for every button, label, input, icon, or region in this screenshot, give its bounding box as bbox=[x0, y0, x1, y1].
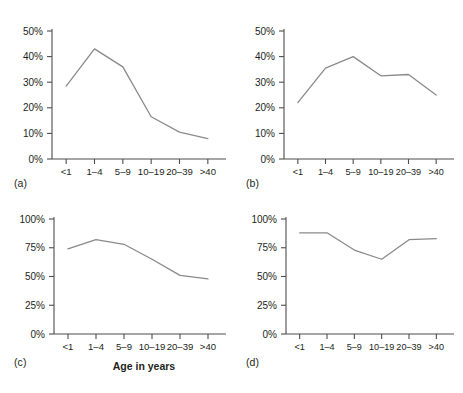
plot-area-d: 0%25%50%75%100%<11–45–910–1920–39>40 bbox=[232, 197, 463, 393]
chart-svg-b: 0%10%20%30%40%50%<11–45–910–1920–39>40 bbox=[232, 0, 463, 196]
data-line-c bbox=[68, 240, 208, 279]
x-tick-label: >40 bbox=[200, 341, 216, 352]
y-tick-label: 30% bbox=[23, 77, 43, 88]
y-tick-label: 10% bbox=[255, 128, 275, 139]
x-tick-label: 5–9 bbox=[115, 166, 131, 177]
x-tick-label: 5–9 bbox=[116, 341, 132, 352]
data-line-a bbox=[66, 49, 208, 139]
data-line-b bbox=[298, 57, 436, 103]
y-tick-label: 50% bbox=[257, 271, 277, 282]
y-tick-label: 25% bbox=[257, 300, 277, 311]
chart-panel-a: 0%10%20%30%40%50%<11–45–910–1920–39>40 (… bbox=[0, 0, 231, 196]
chart-panel-c: 0%25%50%75%100%<11–45–910–1920–39>40 Age… bbox=[0, 197, 231, 393]
y-tick-label: 50% bbox=[25, 271, 45, 282]
y-tick-label: 20% bbox=[255, 102, 275, 113]
data-line-d bbox=[300, 233, 437, 259]
y-tick-label: 75% bbox=[25, 242, 45, 253]
y-tick-label: 0% bbox=[29, 154, 44, 165]
x-tick-label: 10–19 bbox=[369, 342, 394, 352]
x-tick-label: 1–4 bbox=[86, 166, 103, 177]
x-tick-label: <1 bbox=[63, 341, 74, 352]
y-tick-label: 50% bbox=[23, 26, 43, 37]
x-tick-label: 5–9 bbox=[347, 342, 362, 352]
x-tick-label: 1–4 bbox=[318, 167, 333, 177]
x-tick-label: >40 bbox=[200, 166, 216, 177]
plot-area-b: 0%10%20%30%40%50%<11–45–910–1920–39>40 bbox=[232, 0, 463, 196]
x-tick-label: <1 bbox=[293, 167, 303, 177]
x-tick-label: >40 bbox=[428, 167, 443, 177]
chart-svg-a: 0%10%20%30%40%50%<11–45–910–1920–39>40 bbox=[0, 0, 231, 196]
panel-label-b: (b) bbox=[246, 178, 259, 189]
x-axis-title: Age in years bbox=[54, 361, 234, 372]
y-tick-label: 10% bbox=[23, 128, 43, 139]
x-tick-label: 20–39 bbox=[396, 167, 421, 177]
plot-area-a: 0%10%20%30%40%50%<11–45–910–1920–39>40 bbox=[0, 0, 231, 196]
y-tick-label: 100% bbox=[19, 214, 45, 225]
x-tick-label: 10–19 bbox=[139, 341, 166, 352]
y-tick-label: 25% bbox=[25, 300, 45, 311]
x-tick-label: 20–39 bbox=[166, 166, 193, 177]
y-tick-label: 20% bbox=[23, 102, 43, 113]
panel-label-a: (a) bbox=[14, 178, 27, 189]
x-tick-label: 20–39 bbox=[396, 342, 421, 352]
panel-label-c: (c) bbox=[14, 357, 27, 368]
chart-panel-d: 0%25%50%75%100%<11–45–910–1920–39>40 (d) bbox=[232, 197, 463, 393]
y-tick-label: 75% bbox=[257, 242, 277, 253]
y-tick-label: 0% bbox=[261, 154, 276, 165]
chart-svg-d: 0%25%50%75%100%<11–45–910–1920–39>40 bbox=[232, 197, 463, 393]
y-tick-label: 100% bbox=[251, 214, 277, 225]
x-tick-label: 1–4 bbox=[319, 342, 334, 352]
panel-label-d: (d) bbox=[246, 357, 259, 368]
y-tick-label: 0% bbox=[31, 329, 46, 340]
chart-panel-b: 0%10%20%30%40%50%<11–45–910–1920–39>40 (… bbox=[232, 0, 463, 196]
x-tick-label: >40 bbox=[429, 342, 444, 352]
y-tick-label: 40% bbox=[23, 51, 43, 62]
y-tick-label: 30% bbox=[255, 77, 275, 88]
figure-four-line-charts: 0%10%20%30%40%50%<11–45–910–1920–39>40 (… bbox=[0, 0, 463, 393]
x-tick-label: 10–19 bbox=[368, 167, 393, 177]
y-tick-label: 50% bbox=[255, 26, 275, 37]
x-tick-label: <1 bbox=[294, 342, 304, 352]
x-tick-label: 5–9 bbox=[346, 167, 361, 177]
x-tick-label: 20–39 bbox=[167, 341, 194, 352]
x-tick-label: <1 bbox=[61, 166, 72, 177]
y-tick-label: 40% bbox=[255, 51, 275, 62]
x-tick-label: 1–4 bbox=[88, 341, 105, 352]
y-tick-label: 0% bbox=[263, 329, 278, 340]
x-tick-label: 10–19 bbox=[138, 166, 165, 177]
